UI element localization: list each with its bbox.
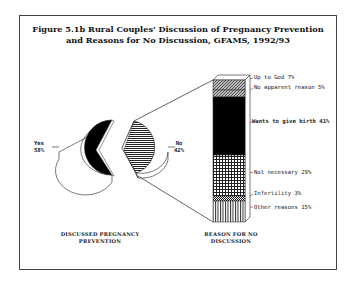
stacked-bar [213,75,250,222]
segment-infertility [213,196,245,201]
connector-bottom [138,176,213,222]
pie-caption-line-2: PREVENTION [50,238,150,245]
bar-caption: REASON FOR NO DISCUSSION [199,231,263,244]
yes-label: Yes [34,140,44,147]
bar-label-other-reasons: Other reasons 15% [254,204,311,211]
bar-label-infertility: Infertility 3% [254,190,301,197]
pie-slice-no [122,121,168,178]
pie-label-yes: Yes 58% [34,140,44,154]
bar-caption-line-1: REASON FOR NO [199,231,263,238]
segment-other-reasons [213,201,245,222]
segment-not-necessary [213,155,245,196]
bar-leader-lines [250,78,253,207]
pie-slice-yes [55,120,114,195]
bar-label-no-apparent-reason: No apparent reason 5% [254,84,325,91]
bar-caption-line-2: DISCUSSION [199,238,263,245]
bar-label-wants-to-give-birth: Wants to give birth 41% [252,118,329,125]
yes-value: 58% [34,147,44,154]
no-label: No [174,140,184,147]
pie-label-no: No 42% [174,140,184,154]
no-value: 42% [174,147,184,154]
pie-caption-line-1: DISCUSSED PREGNANCY [50,231,150,238]
connector-top [134,80,213,121]
bar-label-up-to-god: Up to God 7% [254,74,294,81]
bar-label-not-necessary: Not necessary 29% [254,169,311,176]
segment-wants-to-give-birth [213,97,245,155]
segment-up-to-god [213,80,245,90]
pie-caption: DISCUSSED PREGNANCY PREVENTION [50,231,150,244]
segment-no-apparent-reason [213,90,245,97]
